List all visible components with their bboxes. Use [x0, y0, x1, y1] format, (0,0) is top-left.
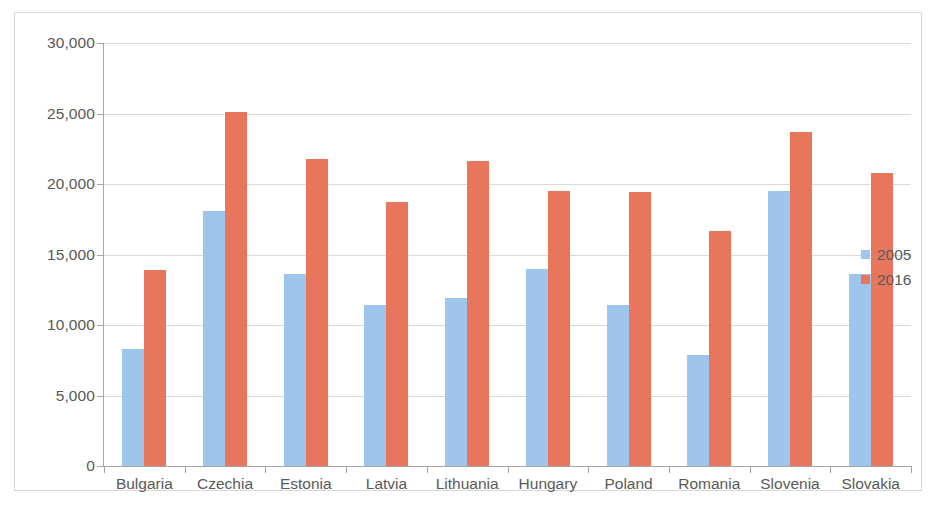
- category-label-latvia: Latvia: [346, 475, 427, 493]
- y-axis-tick-label: 5,000: [56, 387, 95, 405]
- y-axis-tick-label: 10,000: [47, 316, 95, 334]
- category-label-poland: Poland: [588, 475, 669, 493]
- category-tick: [508, 466, 509, 473]
- category-label-lithuania: Lithuania: [427, 475, 508, 493]
- y-axis-tick-label: 30,000: [47, 34, 95, 52]
- bar-slovakia-2016[interactable]: [871, 173, 893, 466]
- bar-slovenia-2005[interactable]: [768, 191, 790, 466]
- chart-legend: 20052016: [861, 242, 921, 292]
- category-tick: [911, 466, 912, 473]
- legend-swatch-icon: [861, 250, 870, 259]
- bar-latvia-2016[interactable]: [386, 202, 408, 466]
- bar-czechia-2005[interactable]: [203, 211, 225, 466]
- bar-group-lithuania: [427, 43, 508, 466]
- legend-swatch-icon: [861, 275, 870, 284]
- category-label-bulgaria: Bulgaria: [104, 475, 185, 493]
- category-tick: [669, 466, 670, 473]
- category-axis-labels: BulgariaCzechiaEstoniaLatviaLithuaniaHun…: [104, 475, 911, 493]
- bar-bulgaria-2016[interactable]: [144, 270, 166, 466]
- category-tick: [104, 466, 105, 473]
- y-axis-tick-label: 25,000: [47, 105, 95, 123]
- bar-group-czechia: [185, 43, 266, 466]
- bar-slovakia-2005[interactable]: [849, 274, 871, 466]
- category-label-estonia: Estonia: [265, 475, 346, 493]
- bar-romania-2016[interactable]: [709, 231, 731, 466]
- bar-group-poland: [588, 43, 669, 466]
- bar-hungary-2016[interactable]: [548, 191, 570, 466]
- legend-label: 2016: [877, 271, 911, 289]
- bar-group-latvia: [346, 43, 427, 466]
- bar-group-slovenia: [750, 43, 831, 466]
- category-tick: [265, 466, 266, 473]
- bar-latvia-2005[interactable]: [364, 305, 386, 466]
- bar-romania-2005[interactable]: [687, 355, 709, 466]
- legend-item-2005[interactable]: 2005: [861, 242, 921, 267]
- bar-czechia-2016[interactable]: [225, 112, 247, 466]
- y-axis-tick-label: 0: [86, 457, 95, 475]
- category-tick: [185, 466, 186, 473]
- bar-hungary-2005[interactable]: [526, 269, 548, 466]
- category-tick: [427, 466, 428, 473]
- legend-item-2016[interactable]: 2016: [861, 267, 921, 292]
- bar-estonia-2005[interactable]: [284, 274, 306, 466]
- y-axis-labels: 30,00025,00020,00015,00010,0005,0000: [15, 13, 95, 492]
- bar-slovenia-2016[interactable]: [790, 132, 812, 466]
- category-tick: [830, 466, 831, 473]
- category-tick: [588, 466, 589, 473]
- bar-group-bulgaria: [104, 43, 185, 466]
- bar-lithuania-2005[interactable]: [445, 298, 467, 466]
- chart-frame: 30,00025,00020,00015,00010,0005,0000 Bul…: [14, 12, 922, 491]
- bar-estonia-2016[interactable]: [306, 159, 328, 466]
- bar-poland-2005[interactable]: [607, 305, 629, 466]
- category-tick: [750, 466, 751, 473]
- category-label-slovakia: Slovakia: [830, 475, 911, 493]
- y-axis-tick-label: 20,000: [47, 175, 95, 193]
- category-label-slovenia: Slovenia: [750, 475, 831, 493]
- legend-label: 2005: [877, 246, 911, 264]
- category-tick: [346, 466, 347, 473]
- category-label-hungary: Hungary: [508, 475, 589, 493]
- bar-group-romania: [669, 43, 750, 466]
- bar-group-estonia: [265, 43, 346, 466]
- bar-lithuania-2016[interactable]: [467, 161, 489, 466]
- y-axis-tick-label: 15,000: [47, 246, 95, 264]
- bar-bulgaria-2005[interactable]: [122, 349, 144, 466]
- bars-layer: [104, 43, 911, 466]
- bar-group-hungary: [508, 43, 589, 466]
- bar-poland-2016[interactable]: [629, 192, 651, 466]
- category-label-czechia: Czechia: [185, 475, 266, 493]
- category-label-romania: Romania: [669, 475, 750, 493]
